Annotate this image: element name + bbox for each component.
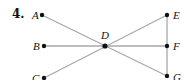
point-b-dot (42, 44, 46, 48)
point-f-label: F (173, 41, 180, 52)
point-e-dot (165, 13, 169, 17)
point-f-dot (165, 44, 169, 48)
point-c-label: C (32, 73, 39, 80)
point-g-label: G (173, 72, 181, 80)
point-a-dot (40, 13, 44, 17)
geometry-figure: 4. ABCDEFG (0, 0, 185, 80)
point-d-dot (102, 43, 107, 48)
point-d-label: D (101, 30, 109, 41)
point-b-label: B (33, 41, 40, 52)
point-a-label: A (32, 10, 39, 21)
point-c-dot (42, 76, 46, 80)
point-e-label: E (173, 10, 180, 21)
figure-canvas (0, 0, 185, 80)
point-g-dot (165, 74, 169, 78)
